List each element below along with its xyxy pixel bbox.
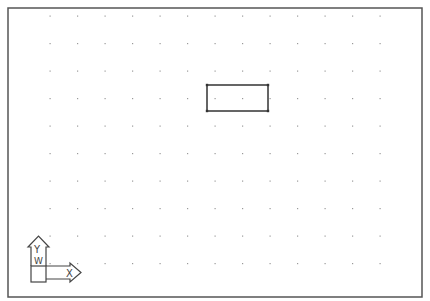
- grid-dot: [187, 43, 188, 44]
- grid-dot: [215, 153, 216, 154]
- grid-dot: [50, 43, 51, 44]
- grid-dot: [297, 126, 298, 127]
- grid-dot: [270, 153, 271, 154]
- grid-dot: [325, 208, 326, 209]
- grid-dot: [105, 263, 106, 264]
- grid-dot: [297, 236, 298, 237]
- grid-dot: [105, 43, 106, 44]
- grid-dot: [380, 181, 381, 182]
- drawing-viewport[interactable]: Y W X: [0, 0, 430, 301]
- grid-dot: [215, 236, 216, 237]
- grid-dot: [380, 236, 381, 237]
- grid-dot: [215, 16, 216, 17]
- grid-dot: [325, 263, 326, 264]
- grid-dot: [187, 236, 188, 237]
- grid-dot: [242, 153, 243, 154]
- grid-dot: [187, 71, 188, 72]
- grid-dots: [50, 16, 381, 265]
- grid-dot: [50, 71, 51, 72]
- grid-dot: [105, 16, 106, 17]
- grid-dot: [187, 181, 188, 182]
- grid-dot: [352, 98, 353, 99]
- grid-dot: [380, 153, 381, 154]
- grid-dot: [270, 16, 271, 17]
- vertex-point: [267, 84, 269, 86]
- grid-dot: [132, 71, 133, 72]
- grid-dot: [187, 153, 188, 154]
- grid-dot: [380, 208, 381, 209]
- ucs-origin-box: [31, 266, 46, 282]
- grid-dot: [132, 236, 133, 237]
- grid-dot: [242, 181, 243, 182]
- grid-dot: [297, 263, 298, 264]
- grid-dot: [297, 208, 298, 209]
- grid-dot: [352, 153, 353, 154]
- grid-dot: [132, 208, 133, 209]
- grid-dot: [105, 98, 106, 99]
- grid-dot: [325, 43, 326, 44]
- ucs-x-label: X: [66, 268, 73, 279]
- grid-dot: [77, 208, 78, 209]
- grid-dot: [352, 208, 353, 209]
- ucs-icon: Y W X: [28, 236, 81, 282]
- grid-dot: [242, 236, 243, 237]
- grid-dot: [77, 263, 78, 264]
- grid-dot: [160, 153, 161, 154]
- grid-dot: [77, 126, 78, 127]
- grid-dot: [77, 98, 78, 99]
- grid-dot: [297, 16, 298, 17]
- grid-dot: [297, 71, 298, 72]
- grid-dot: [325, 181, 326, 182]
- grid-dot: [77, 181, 78, 182]
- grid-dot: [270, 208, 271, 209]
- drawing-canvas[interactable]: Y W X: [0, 0, 430, 301]
- grid-dot: [352, 43, 353, 44]
- grid-dot: [380, 71, 381, 72]
- grid-dot: [50, 236, 51, 237]
- viewport-border: [8, 8, 422, 297]
- grid-dot: [325, 98, 326, 99]
- grid-dot: [50, 208, 51, 209]
- grid-dot: [105, 126, 106, 127]
- grid-dot: [215, 208, 216, 209]
- grid-dot: [270, 98, 271, 99]
- grid-dot: [352, 126, 353, 127]
- grid-dot: [50, 153, 51, 154]
- grid-dot: [160, 126, 161, 127]
- grid-dot: [187, 208, 188, 209]
- ucs-y-label: Y: [33, 244, 41, 255]
- grid-dot: [160, 236, 161, 237]
- grid-dot: [380, 263, 381, 264]
- drawn-rectangle[interactable]: [207, 85, 268, 111]
- grid-dot: [160, 43, 161, 44]
- grid-dot: [380, 126, 381, 127]
- grid-dot: [242, 98, 243, 99]
- grid-dot: [187, 263, 188, 264]
- grid-dot: [325, 236, 326, 237]
- grid-dot: [160, 16, 161, 17]
- grid-dot: [352, 263, 353, 264]
- grid-dot: [325, 16, 326, 17]
- grid-dot: [215, 98, 216, 99]
- ucs-x-arrow-icon: [46, 263, 81, 282]
- grid-dot: [270, 236, 271, 237]
- grid-dot: [270, 181, 271, 182]
- grid-dot: [105, 153, 106, 154]
- grid-dot: [50, 181, 51, 182]
- grid-dot: [187, 16, 188, 17]
- grid-dot: [270, 43, 271, 44]
- grid-dot: [132, 16, 133, 17]
- grid-dot: [50, 263, 51, 264]
- grid-dot: [297, 181, 298, 182]
- grid-dot: [325, 71, 326, 72]
- grid-dot: [50, 126, 51, 127]
- grid-dot: [187, 126, 188, 127]
- grid-dot: [105, 208, 106, 209]
- grid-dot: [380, 16, 381, 17]
- grid-dot: [105, 181, 106, 182]
- grid-dot: [77, 153, 78, 154]
- grid-dot: [105, 236, 106, 237]
- grid-dot: [215, 43, 216, 44]
- grid-dot: [215, 263, 216, 264]
- grid-dot: [242, 263, 243, 264]
